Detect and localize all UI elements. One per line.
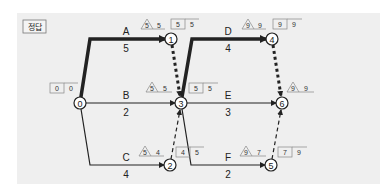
svg-text:9: 9 <box>292 21 296 28</box>
svg-text:7: 7 <box>257 149 261 156</box>
svg-text:B: B <box>123 90 130 101</box>
svg-text:5: 5 <box>163 85 167 92</box>
activity-b: B 2 <box>86 90 175 118</box>
svg-text:5: 5 <box>150 85 154 92</box>
svg-text:F: F <box>225 152 231 163</box>
dummy-4-6 <box>273 45 281 96</box>
svg-text:2: 2 <box>123 107 129 118</box>
svg-text:4: 4 <box>269 35 274 45</box>
svg-text:5: 5 <box>208 85 212 92</box>
svg-text:7: 7 <box>283 149 287 156</box>
svg-text:9: 9 <box>297 149 301 156</box>
svg-text:4: 4 <box>156 149 160 156</box>
svg-text:3: 3 <box>225 107 231 118</box>
node-6: 6 <box>276 97 288 109</box>
svg-text:9: 9 <box>304 85 308 92</box>
svg-text:5: 5 <box>195 149 199 156</box>
svg-text:D: D <box>224 26 231 37</box>
svg-text:0: 0 <box>69 85 73 92</box>
annotation-node-6: 9 9 <box>287 82 314 92</box>
dummy-5-6 <box>272 110 281 159</box>
activity-e: E 3 <box>187 90 276 118</box>
activity-c: C 4 <box>81 109 164 180</box>
svg-text:5: 5 <box>268 161 273 171</box>
svg-text:5: 5 <box>194 85 198 92</box>
annotation-node-0: 0 0 <box>50 83 78 93</box>
svg-text:0: 0 <box>77 99 82 109</box>
annotation-node-1: 5 5 5 5 <box>141 19 199 29</box>
dummy-2-3 <box>171 110 180 159</box>
svg-text:정답: 정답 <box>28 22 43 32</box>
svg-text:9: 9 <box>244 149 248 156</box>
svg-text:4: 4 <box>123 169 129 180</box>
svg-text:9: 9 <box>291 85 295 92</box>
svg-text:C: C <box>122 152 129 163</box>
node-1: 1 <box>165 33 177 45</box>
answer-badge: 정답 <box>23 20 46 33</box>
svg-text:5: 5 <box>190 21 194 28</box>
node-4: 4 <box>266 33 278 45</box>
svg-text:4: 4 <box>225 43 231 54</box>
svg-text:E: E <box>225 90 232 101</box>
network-diagram: 정답 A 5 B 2 C 4 D 4 E 3 F 2 <box>0 0 389 196</box>
svg-text:2: 2 <box>225 169 231 180</box>
svg-text:1: 1 <box>168 35 173 45</box>
node-3: 3 <box>175 97 187 109</box>
svg-text:2: 2 <box>167 161 172 171</box>
node-5: 5 <box>265 159 277 171</box>
svg-text:9: 9 <box>246 22 250 29</box>
node-0: 0 <box>74 97 86 109</box>
svg-text:5: 5 <box>157 22 161 29</box>
svg-text:6: 6 <box>279 99 284 109</box>
svg-text:3: 3 <box>178 99 183 109</box>
svg-text:5: 5 <box>145 22 149 29</box>
svg-text:5: 5 <box>123 43 129 54</box>
activity-f: F 2 <box>182 109 265 180</box>
dummy-1-3 <box>172 45 180 96</box>
svg-text:4: 4 <box>181 149 185 156</box>
node-2: 2 <box>164 159 176 171</box>
svg-text:5: 5 <box>143 149 147 156</box>
svg-text:A: A <box>123 26 130 37</box>
svg-text:0: 0 <box>55 85 59 92</box>
svg-text:5: 5 <box>176 21 180 28</box>
svg-text:9: 9 <box>278 21 282 28</box>
annotation-node-4: 9 9 9 9 <box>242 19 302 29</box>
svg-text:9: 9 <box>258 22 262 29</box>
